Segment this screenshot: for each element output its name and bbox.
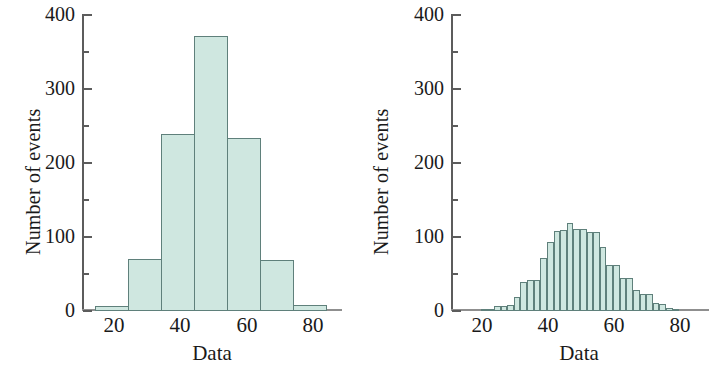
bar-bin-54-56 [593,232,600,311]
bar-bin-24-26 [494,306,501,311]
bar-bin-48-50 [573,229,580,311]
bar-bin-60-62 [613,265,620,311]
x-tick-label-40: 40 [526,313,570,338]
bar-bin-46-48 [567,223,574,311]
x-tick-label-80: 80 [658,313,702,338]
chart-panel-left: Number of events 400 300 200 100 0 [0,0,355,369]
bar-bin-36-38 [534,280,541,311]
x-axis-label: Data [519,341,639,366]
bar-bin-32-34 [520,282,527,311]
bar-bin-50-52 [580,229,587,311]
bar-bin-76-78 [666,308,673,311]
bar-bin-45-55 [194,36,228,311]
bar-bin-66-68 [633,290,640,311]
bar-bin-40-42 [547,242,554,311]
bar-bin-56-58 [600,247,607,311]
bar-bin-62-64 [620,278,627,311]
bar-bin-15-25 [95,306,129,311]
bar-bin-30-32 [514,297,521,311]
x-tick-label-60: 60 [592,313,636,338]
bar-bin-25-35 [128,259,162,311]
bar-bin-58-60 [606,265,613,311]
figure-root: Number of events 400 300 200 100 0 [0,0,711,369]
bar-bin-28-30 [507,305,514,311]
x-tick-label-60: 60 [225,313,269,338]
bar-bin-35-45 [161,134,195,311]
x-tick-label-20: 20 [460,313,504,338]
bar-bin-64-66 [626,278,633,311]
x-tick-label-20: 20 [92,313,136,338]
bar-bin-42-44 [554,231,561,311]
bar-bin-78-80 [673,309,680,311]
bar-bin-38-40 [540,258,547,311]
bar-bin-72-74 [653,303,660,311]
bar-bin-22-24 [487,309,494,311]
bar-bin-65-75 [260,260,294,311]
bar-bin-55-65 [227,138,261,311]
bar-bin-52-54 [587,232,594,311]
x-tick-label-80: 80 [291,313,335,338]
bar-bin-75-85 [293,305,327,311]
bar-bin-70-72 [646,294,653,311]
bar-bin-74-76 [659,304,666,311]
bar-bin-68-70 [640,294,647,311]
x-axis-label: Data [152,341,272,366]
chart-panel-right: Number of events 400 300 200 100 0 20 40… [356,0,711,369]
bar-bin-26-28 [501,306,508,311]
bar-bin-34-36 [527,280,534,311]
bar-bin-20-22 [481,309,488,311]
bar-bin-44-46 [560,230,567,311]
x-tick-label-40: 40 [158,313,202,338]
